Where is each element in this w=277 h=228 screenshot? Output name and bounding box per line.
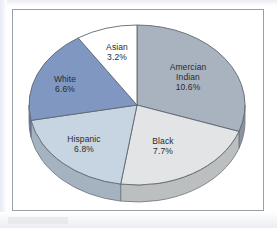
pie-top-faces — [29, 25, 245, 185]
pie-chart-graphic — [13, 10, 265, 212]
page-edge-bottom — [0, 212, 277, 228]
chart-frame: Amercian Indian 10.6% Black 7.7% Hispani… — [12, 9, 264, 211]
page-smudge — [8, 217, 68, 224]
page-edge-top — [0, 0, 277, 6]
page-edge-left — [0, 0, 7, 228]
screenshot-root: Amercian Indian 10.6% Black 7.7% Hispani… — [0, 0, 277, 228]
pie-chart: Amercian Indian 10.6% Black 7.7% Hispani… — [13, 10, 265, 212]
